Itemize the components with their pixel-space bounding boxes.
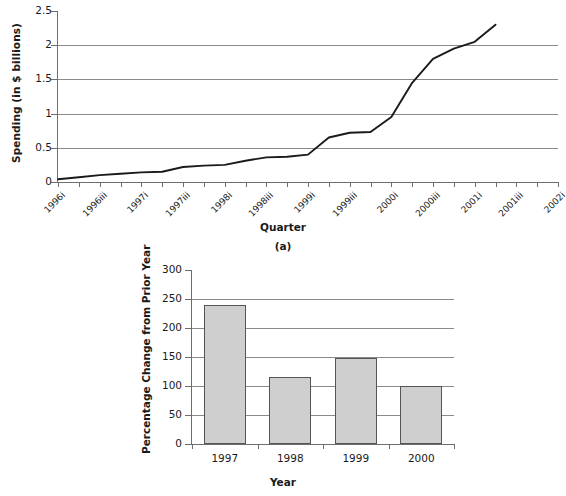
x-tick-a [287, 182, 288, 187]
y-tick-label-b: 200 [148, 321, 182, 333]
x-tick-a [329, 182, 330, 187]
y-tick-a [51, 148, 58, 149]
x-tick-a [537, 182, 538, 187]
y-axis-label-a: Spending (in $ billions) [10, 0, 24, 186]
spending-line-series [58, 11, 558, 182]
bar [204, 305, 246, 444]
x-tick-b [389, 444, 390, 449]
y-tick-label-b: 100 [148, 379, 182, 391]
x-tick-a [204, 182, 205, 187]
x-tick-a [308, 182, 309, 187]
y-tick-label-b: 0 [148, 437, 182, 449]
bar [400, 386, 442, 444]
x-tick-a [141, 182, 142, 187]
x-tick-a [391, 182, 392, 187]
y-tick-b [185, 328, 192, 329]
x-tick-a [58, 182, 59, 187]
y-tick-b [185, 357, 192, 358]
y-tick-a [51, 45, 58, 46]
x-tick-a [183, 182, 184, 187]
y-tick-a [51, 114, 58, 115]
x-tick-a [246, 182, 247, 187]
y-tick-label-a: 2.5 [12, 4, 52, 16]
x-tick-a [412, 182, 413, 187]
x-tick-b [258, 444, 259, 449]
x-tick-label-b: 1999 [326, 452, 386, 464]
y-tick-label-a: 1.5 [12, 72, 52, 84]
y-axis-label-a-container: Spending (in $ billions) [6, 0, 28, 190]
x-tick-label-b: 1998 [260, 452, 320, 464]
x-tick-b [323, 444, 324, 449]
x-tick-a [433, 182, 434, 187]
y-tick-label-b: 300 [148, 263, 182, 275]
panel-caption-a: (a) [0, 240, 566, 252]
y-tick-label-b: 150 [148, 350, 182, 362]
y-tick-label-b: 250 [148, 292, 182, 304]
x-tick-a [162, 182, 163, 187]
y-tick-label-b: 50 [148, 408, 182, 420]
x-tick-a [350, 182, 351, 187]
bar-chart-panel-b: Percentage Change from Prior Year 050100… [0, 258, 566, 496]
x-tick-a [79, 182, 80, 187]
y-tick-b [185, 415, 192, 416]
y-tick-label-a: 1 [12, 107, 52, 119]
plot-area-a [58, 11, 558, 182]
x-tick-a [371, 182, 372, 187]
y-tick-a [51, 79, 58, 80]
y-tick-label-a: 0 [12, 175, 52, 187]
x-tick-a [266, 182, 267, 187]
x-tick-a [496, 182, 497, 187]
y-tick-a [51, 182, 58, 183]
x-tick-a [100, 182, 101, 187]
x-tick-a [558, 182, 559, 187]
y-tick-b [185, 386, 192, 387]
x-axis-label-a: Quarter [0, 221, 566, 233]
bar [335, 358, 377, 444]
x-tick-b [454, 444, 455, 449]
x-tick-a [225, 182, 226, 187]
y-tick-b [185, 270, 192, 271]
plot-area-b [192, 270, 454, 444]
x-tick-a [454, 182, 455, 187]
x-tick-a [516, 182, 517, 187]
x-tick-label-b: 1997 [195, 452, 255, 464]
x-axis-label-b: Year [0, 476, 566, 488]
y-tick-label-a: 0.5 [12, 141, 52, 153]
bar [269, 377, 311, 444]
x-tick-b [192, 444, 193, 449]
y-tick-label-a: 2 [12, 38, 52, 50]
y-tick-b [185, 444, 192, 445]
y-tick-a [51, 11, 58, 12]
x-tick-a [475, 182, 476, 187]
x-tick-a [121, 182, 122, 187]
x-tick-label-b: 2000 [391, 452, 451, 464]
y-tick-b [185, 299, 192, 300]
line-chart-panel-a: Spending (in $ billions) 00.511.522.5 19… [0, 0, 566, 258]
